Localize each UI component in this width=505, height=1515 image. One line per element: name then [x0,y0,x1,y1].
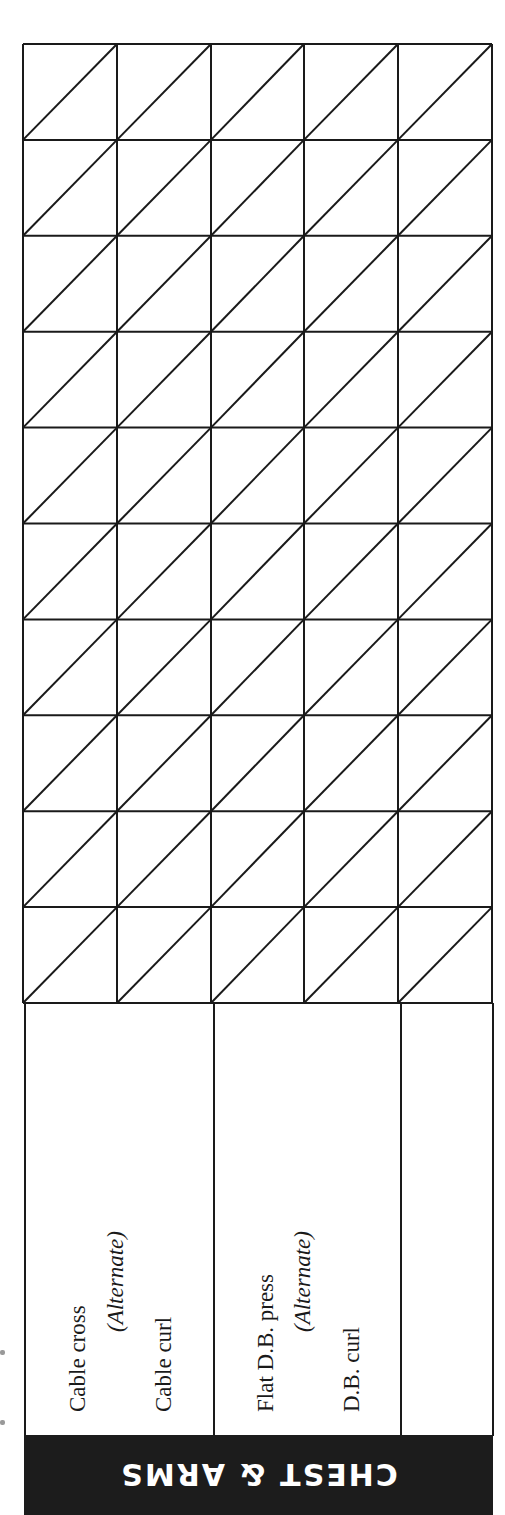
cell-diagonal [23,811,117,907]
exercise-1-secondary: Cable curl [152,1317,175,1412]
exercise-2-primary: Flat D.B. press [254,1274,277,1412]
exercise-2-secondary: D.B. curl [340,1327,363,1412]
cell-diagonal [398,44,492,140]
cell-diagonal [398,619,492,715]
cell-diagonal [304,332,398,428]
page-edge-mark [0,1350,5,1355]
cell-diagonal [211,907,304,1003]
cell-diagonal [211,811,304,907]
cell-diagonal [304,619,398,715]
section-header-bar: CHEST & ARMS [24,1435,493,1515]
cell-diagonal [117,524,211,620]
cell-diagonal [304,907,398,1003]
cell-diagonal [23,619,117,715]
cell-diagonal [211,619,304,715]
cell-diagonal [398,907,492,1003]
exercise-1-primary: Cable cross [66,1305,89,1412]
cell-diagonal [117,44,211,140]
cell-diagonal [117,715,211,811]
cell-diagonal [304,811,398,907]
cell-diagonal [398,428,492,524]
cell-diagonal [211,715,304,811]
cell-diagonal [398,811,492,907]
cell-diagonal [117,332,211,428]
cell-diagonal [117,236,211,332]
section-title: CHEST & ARMS [24,1435,493,1515]
cell-diagonal [211,236,304,332]
cell-diagonal [117,907,211,1003]
cell-diagonal [304,44,398,140]
cell-diagonal [117,428,211,524]
cell-diagonal [23,428,117,524]
cell-diagonal [117,811,211,907]
cell-diagonal [304,140,398,236]
workout-log-page: Cable cross (Alternate) Cable curl Flat … [0,0,505,1515]
cell-diagonal [23,236,117,332]
cell-diagonal [23,332,117,428]
cell-diagonal [23,907,117,1003]
cell-diagonal [398,140,492,236]
exercise-2-connector: (Alternate) [291,1231,314,1332]
cell-diagonal [23,524,117,620]
cell-diagonal [211,44,304,140]
cell-diagonal [211,140,304,236]
cell-diagonal [304,428,398,524]
cell-diagonal [23,44,117,140]
cell-diagonal [211,524,304,620]
page-edge-mark [0,1420,5,1425]
cell-diagonal [23,715,117,811]
cell-diagonal [304,524,398,620]
cell-diagonal [398,332,492,428]
exercise-1-connector: (Alternate) [104,1231,127,1332]
cell-diagonal [398,524,492,620]
cell-diagonal [211,428,304,524]
cell-diagonal [117,140,211,236]
cell-diagonal [398,715,492,811]
cell-diagonal [304,236,398,332]
cell-diagonal [23,140,117,236]
cell-diagonal [398,236,492,332]
cell-diagonal [117,619,211,715]
cell-diagonal [211,332,304,428]
cell-diagonal [304,715,398,811]
